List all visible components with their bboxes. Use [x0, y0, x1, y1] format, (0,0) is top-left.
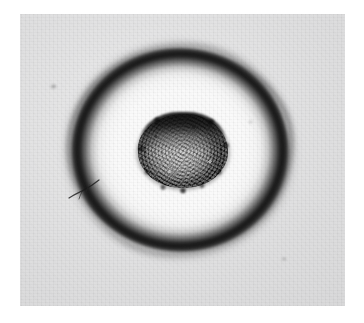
dust-speck-upper-left	[50, 84, 57, 89]
dust-speck-lower-right	[281, 257, 287, 261]
micrograph-plate	[20, 14, 345, 306]
central-core-blob	[138, 114, 228, 188]
core-edge-granules	[133, 110, 233, 194]
figure-root: No text, axes, scale bar, legend or labe…	[0, 0, 364, 323]
colony-ring-structure	[70, 47, 290, 253]
